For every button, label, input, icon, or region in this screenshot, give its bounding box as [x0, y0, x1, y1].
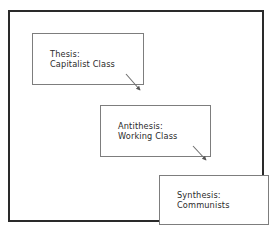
- node-antithesis-line-2: Working Class: [101, 131, 210, 142]
- node-synthesis-line-2: Communists: [160, 200, 268, 211]
- diagram-canvas: Thesis: Capitalist Class Antithesis: Wor…: [0, 0, 276, 233]
- node-thesis[interactable]: Thesis: Capitalist Class: [32, 33, 144, 85]
- node-thesis-line-2: Capitalist Class: [33, 59, 143, 70]
- node-synthesis[interactable]: Synthesis: Communists: [159, 175, 269, 225]
- node-antithesis[interactable]: Antithesis: Working Class: [100, 105, 211, 157]
- node-antithesis-line-1: Antithesis:: [101, 121, 210, 132]
- figure-frame: Thesis: Capitalist Class Antithesis: Wor…: [8, 10, 264, 222]
- node-thesis-line-1: Thesis:: [33, 49, 143, 60]
- node-synthesis-line-1: Synthesis:: [160, 190, 268, 201]
